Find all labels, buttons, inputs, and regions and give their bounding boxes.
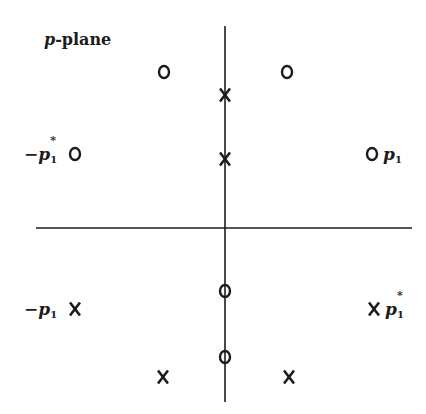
subscript: 1 — [50, 154, 57, 165]
title-text: -plane — [55, 30, 111, 49]
label-p1-conj: p1* — [385, 301, 404, 320]
variable: p — [383, 144, 395, 164]
label-p1: p1 — [383, 146, 402, 165]
label-neg-p1: −p1 — [24, 301, 57, 320]
p-plane-diagram — [0, 0, 426, 414]
minus-sign: − — [24, 144, 38, 164]
subscript: 1 — [395, 154, 402, 165]
pole-lower-right-cross-icon — [284, 371, 294, 384]
variable: p — [38, 144, 50, 164]
zero-upper-right-circle-icon — [282, 66, 292, 78]
zeros-group — [70, 66, 377, 363]
zero-p1-circle-icon — [367, 148, 377, 160]
plane-title: p-plane — [44, 32, 111, 48]
variable: p — [38, 299, 50, 319]
variable: p — [385, 299, 397, 319]
conjugate-star: * — [397, 290, 403, 301]
subscript: 1 — [397, 309, 404, 320]
subscript: 1 — [50, 309, 57, 320]
pole-neg-p1-cross-icon — [70, 303, 80, 316]
zero-neg-p1-conj-circle-icon — [70, 148, 80, 160]
label-neg-p1-conj: −p1* — [24, 146, 57, 165]
minus-sign: − — [24, 299, 38, 319]
pole-p1-conj-cross-icon — [369, 303, 379, 316]
title-variable: p — [44, 30, 55, 49]
zero-upper-left-circle-icon — [159, 66, 169, 78]
pole-lower-left-cross-icon — [158, 371, 168, 384]
conjugate-star: * — [50, 135, 56, 146]
